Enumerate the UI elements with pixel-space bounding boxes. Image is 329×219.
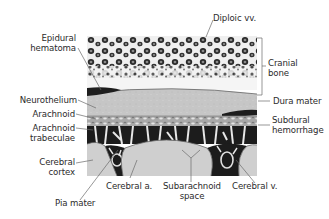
label-neurothelium: Neurothelium (20, 95, 77, 105)
label-cerebral-artery: Cerebral a. (106, 181, 152, 191)
label-dura-mater: Dura mater (273, 96, 321, 106)
label-arachnoid: Arachnoid (33, 109, 76, 119)
label-cranial-bone: Cranial bone (268, 58, 298, 78)
label-subdural-hemorrhage: Subdural hemorrhage (272, 115, 324, 135)
label-cerebral-cortex: Cerebral cortex (39, 157, 75, 177)
label-pia-mater: Pia mater (55, 198, 95, 208)
label-diploic-vv: Diploic vv. (213, 13, 256, 23)
label-epidural-hematoma: Epidural hematoma (30, 33, 76, 53)
meninges-illustration (87, 36, 257, 176)
label-arachnoid-trabeculae: Arachnoid trabeculae (30, 123, 75, 143)
label-subarachnoid-space: Subarachnoid space (159, 181, 225, 201)
label-cerebral-vein: Cerebral v. (232, 181, 277, 191)
arachnoid-region (87, 116, 257, 126)
